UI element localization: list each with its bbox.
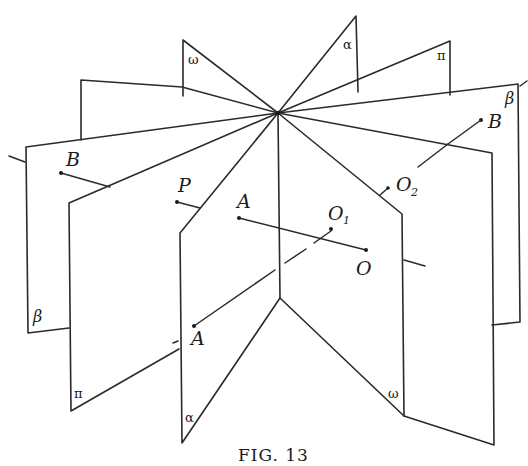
label-O: O bbox=[356, 257, 372, 279]
axis-vertex bbox=[276, 111, 280, 115]
label-alpha-top: α bbox=[343, 37, 352, 52]
label-beta-right: β bbox=[504, 89, 514, 108]
point-P bbox=[175, 200, 179, 204]
label-alpha-bottom: α bbox=[185, 410, 194, 425]
segment-B-left bbox=[61, 173, 110, 187]
point-O bbox=[364, 248, 368, 252]
point-B-left bbox=[59, 171, 63, 175]
point-A-upper bbox=[237, 216, 241, 220]
label-B-right: B bbox=[487, 110, 502, 132]
plane-omega-front bbox=[278, 113, 404, 416]
label-P: P bbox=[177, 174, 192, 196]
label-omega-bottom: ω bbox=[388, 386, 399, 401]
label-omega-top: ω bbox=[188, 52, 199, 67]
svg-text:2: 2 bbox=[410, 186, 418, 199]
svg-text:1: 1 bbox=[343, 214, 350, 227]
label-pi-bottom: π bbox=[74, 386, 83, 401]
segment-A-lower bbox=[194, 270, 275, 326]
plane-pi-back-left bbox=[81, 80, 278, 140]
plane-beta-left bbox=[9, 113, 278, 333]
plane-alpha-back bbox=[278, 16, 358, 113]
label-O2: O 2 bbox=[396, 173, 418, 199]
pencil-of-planes-figure: B B P A A O O 1 O 2 ω α π β β π α ω FIG.… bbox=[0, 0, 528, 466]
plane-alpha-front bbox=[180, 113, 280, 443]
label-A-lower: A bbox=[189, 327, 205, 349]
label-O1: O 1 bbox=[328, 202, 350, 227]
central-axis bbox=[278, 113, 280, 298]
point-O2 bbox=[386, 186, 390, 190]
label-B-left: B bbox=[65, 148, 80, 170]
label-pi-top: π bbox=[437, 48, 446, 63]
segment-O-extension bbox=[404, 260, 425, 266]
plane-pi-right bbox=[278, 113, 494, 445]
svg-text:O: O bbox=[396, 173, 412, 195]
plane-omega-back bbox=[183, 40, 278, 113]
plane-pi-left bbox=[69, 113, 278, 411]
point-O1 bbox=[329, 227, 333, 231]
figure-caption: FIG. 13 bbox=[238, 445, 309, 465]
label-beta-left: β bbox=[32, 307, 42, 326]
svg-text:O: O bbox=[328, 202, 344, 224]
segment-P bbox=[177, 202, 200, 208]
label-A-upper: A bbox=[235, 190, 251, 212]
segment-B-right bbox=[418, 144, 448, 167]
